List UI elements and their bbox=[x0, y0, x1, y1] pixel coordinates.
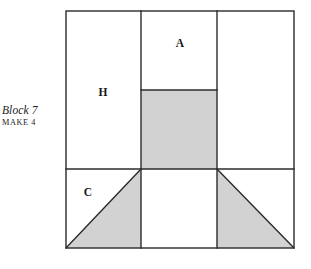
block-drawing: A H C bbox=[0, 0, 311, 269]
piece-label-c: C bbox=[84, 186, 92, 198]
piece-center-shaded-rect bbox=[141, 90, 217, 169]
piece-label-h: H bbox=[99, 86, 108, 98]
piece-label-a: A bbox=[176, 37, 185, 49]
quilt-block-diagram: Block 7 MAKE 4 A H C bbox=[0, 0, 311, 269]
